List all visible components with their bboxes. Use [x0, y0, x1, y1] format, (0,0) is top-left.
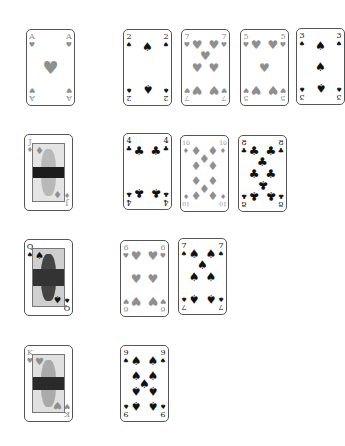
card-jack-of-diamonds[interactable]: J♦ J♦ ♦ ♦	[24, 134, 73, 211]
rank-label: 7	[180, 303, 188, 311]
heart-icon: ♥	[130, 295, 142, 307]
card-index: 2♠	[162, 86, 170, 102]
card-index: 7♠	[217, 295, 225, 311]
card-queen-of-spades[interactable]: Q♠ Q♠ ♠ ♠	[24, 239, 73, 316]
heart-icon: ♥	[250, 84, 262, 96]
club-icon: ♣	[133, 187, 145, 199]
spade-icon: ♠	[217, 295, 225, 303]
card-index: 6♥	[159, 297, 167, 313]
rank-label: A	[28, 33, 36, 41]
face-band	[33, 167, 64, 178]
heart-icon: ♥	[208, 84, 220, 96]
card-index: 2♠	[125, 33, 133, 49]
heart-icon: ♥	[65, 41, 73, 49]
rank-label: 10	[219, 200, 227, 208]
card-4-of-clubs[interactable]: 4♣ 4♣ 4♣ 4♣ ♣ ♣ ♣ ♣	[123, 133, 172, 210]
spade-icon: ♠	[298, 40, 306, 48]
rank-label: 7	[183, 94, 191, 102]
spade-icon: ♠	[142, 41, 154, 53]
face-band	[33, 269, 64, 286]
rank-label: 7	[220, 94, 228, 102]
heart-icon: ♥	[28, 41, 36, 49]
spade-icon: ♠	[315, 61, 327, 73]
rank-label: 8	[240, 139, 248, 147]
card-index: 3♠	[335, 32, 343, 48]
club-icon: ♣	[240, 147, 248, 155]
heart-icon: ♥	[65, 86, 73, 94]
rank-label: 5	[279, 94, 287, 102]
rank-label: A	[28, 94, 36, 102]
spade-icon: ♠	[35, 251, 44, 261]
card-index: 8♣	[240, 139, 248, 155]
rank-label: 2	[125, 94, 133, 102]
rank-label: 2	[125, 33, 133, 41]
card-index: 8♣	[277, 192, 285, 208]
card-8-of-clubs[interactable]: 8♣ 8♣ 8♣ 8♣ ♣ ♣ ♣ ♣ ♣ ♣ ♣ ♣	[238, 135, 287, 212]
spade-icon: ♠	[315, 82, 327, 94]
rank-label: 5	[279, 33, 287, 41]
king-face-artwork: ♥ ♥	[32, 354, 65, 413]
heart-icon: ♥	[279, 41, 287, 49]
heart-icon: ♥	[159, 252, 167, 260]
card-ace-of-hearts[interactable]: A♥ A♥ A♥ A♥ ♥	[26, 29, 75, 106]
rank-label: 10	[182, 200, 190, 208]
heart-icon: ♥	[122, 297, 130, 305]
spade-icon: ♠	[335, 40, 343, 48]
card-index: 7♠	[180, 242, 188, 258]
spade-icon: ♠	[147, 385, 159, 397]
rank-label: 8	[277, 139, 285, 147]
spade-icon: ♠	[217, 250, 225, 258]
card-7-of-hearts[interactable]: 7♥ 7♥ 7♥ 7♥ ♥ ♥ ♥ ♥ ♥ ♥ ♥	[181, 29, 230, 106]
card-index: A♥	[28, 33, 36, 49]
spade-icon: ♠	[159, 402, 167, 410]
heart-icon: ♥	[183, 86, 191, 94]
rank-label: 5	[242, 33, 250, 41]
heart-icon: ♥	[28, 86, 36, 94]
club-icon: ♣	[240, 192, 248, 200]
heart-icon: ♥	[267, 84, 279, 96]
diamond-icon: ♦	[219, 147, 227, 155]
rank-label: 8	[240, 200, 248, 208]
card-index: A♥	[65, 86, 73, 102]
queen-face-artwork: ♠ ♠	[32, 248, 65, 307]
spade-icon: ♠	[205, 293, 217, 305]
card-index: A♥	[65, 33, 73, 49]
heart-icon: ♥	[122, 252, 130, 260]
spade-icon: ♠	[130, 385, 142, 397]
club-icon: ♣	[277, 147, 285, 155]
card-index: 6♥	[159, 244, 167, 260]
card-king-of-hearts[interactable]: K♥ K♥ ♥ ♥	[24, 345, 73, 422]
club-icon: ♣	[265, 190, 277, 202]
card-5-of-hearts[interactable]: 5♥ 5♥ 5♥ 5♥ ♥ ♥ ♥ ♥ ♥	[240, 29, 289, 106]
rank-label: 7	[183, 33, 191, 41]
spade-icon: ♠	[315, 40, 327, 52]
spade-icon: ♠	[180, 295, 188, 303]
card-2-of-spades[interactable]: 2♠ 2♠ 2♠ 2♠ ♠ ♠	[123, 29, 172, 106]
club-icon: ♣	[248, 190, 260, 202]
card-10-of-diamonds[interactable]: 10♦ 10♦ 10♦ 10♦ ♦ ♦ ♦ ♦ ♦ ♦ ♦ ♦ ♦ ♦	[180, 135, 229, 212]
heart-icon: ♥	[130, 273, 142, 285]
spade-icon: ♠	[335, 85, 343, 93]
rank-label: 4	[162, 137, 170, 145]
card-index: 5♥	[279, 33, 287, 49]
heart-icon: ♥	[242, 86, 250, 94]
rank-label: 7	[180, 242, 188, 250]
club-icon: ♣	[277, 192, 285, 200]
rank-label: 3	[298, 32, 306, 40]
spade-icon: ♠	[122, 357, 130, 365]
card-index: 4♣	[162, 137, 170, 153]
card-index: 9♠	[122, 402, 130, 418]
card-7-of-spades[interactable]: 7♠ 7♠ 7♠ 7♠ ♠ ♠ ♠ ♠ ♠ ♠ ♠	[178, 238, 227, 315]
card-9-of-spades[interactable]: 9♠ 9♠ 9♠ 9♠ ♠ ♠ ♠ ♠ ♠ ♠ ♠ ♠ ♠	[120, 345, 169, 422]
card-index: 7♥	[220, 33, 228, 49]
card-index: 7♥	[220, 86, 228, 102]
card-3-of-spades[interactable]: 3♠ 3♠ 3♠ 3♠ ♠ ♠ ♠	[296, 28, 345, 105]
rank-label: 3	[335, 32, 343, 40]
rank-label: 9	[159, 410, 167, 418]
heart-icon: ♥	[130, 250, 142, 262]
card-index: 10♦	[182, 192, 190, 208]
face-band	[33, 377, 64, 391]
card-6-of-hearts[interactable]: 6♥ 6♥ 6♥ 6♥ ♥ ♥ ♥ ♥ ♥ ♥	[120, 240, 169, 317]
spade-icon: ♠	[188, 271, 200, 283]
card-index: 3♠	[298, 85, 306, 101]
